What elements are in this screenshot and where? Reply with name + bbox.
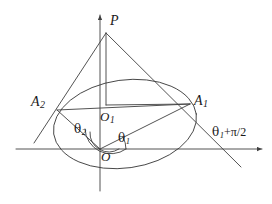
label-tangent-point-A1: A1 bbox=[194, 94, 208, 109]
label-apex-P: P bbox=[110, 14, 119, 28]
label-ellipse-center-O1: O1 bbox=[100, 110, 115, 125]
label-angle-theta2: θ2 bbox=[74, 123, 86, 137]
label-angle-theta1: θ1 bbox=[118, 132, 130, 146]
label-origin-O: O bbox=[101, 150, 110, 163]
label-axis-direction: θ1+π/2 bbox=[212, 126, 246, 140]
tangent-line-left bbox=[34, 33, 106, 143]
geometry-figure: P A2 A1 O1 O θ2 θ1 θ1+π/2 bbox=[0, 0, 272, 204]
label-tangent-point-A2: A2 bbox=[31, 95, 45, 110]
